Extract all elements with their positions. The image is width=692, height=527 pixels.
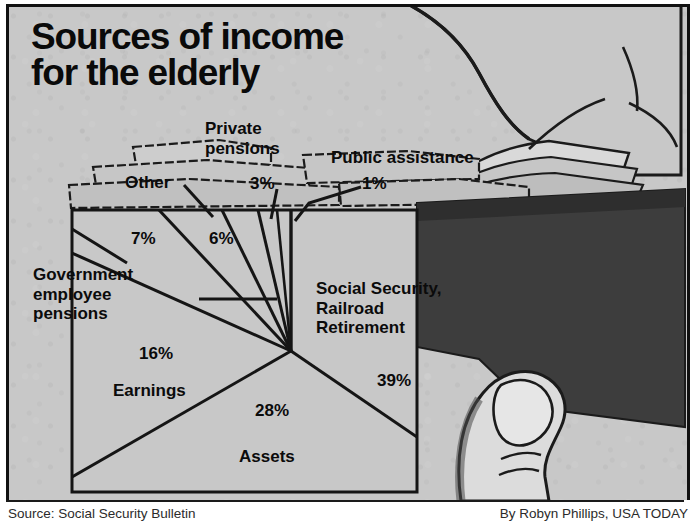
value-public-assistance: 1% [362, 174, 387, 194]
label-social-security-line-1: Social Security, [316, 279, 441, 298]
label-private-pensions-line-1: Private [205, 119, 262, 138]
label-earnings: Earnings [113, 381, 186, 401]
label-government-pensions: Government employee pensions [33, 265, 133, 324]
label-government-pensions-line-1: Government [33, 265, 133, 284]
footer-rule [6, 500, 684, 502]
label-public-assistance: Public assistance [331, 148, 474, 168]
value-social-security: 39% [377, 371, 411, 391]
value-government-pensions: 6% [209, 229, 234, 249]
page-title: Sources of income for the elderly [31, 19, 451, 92]
label-government-pensions-line-3: pensions [33, 304, 108, 323]
chart-panel: Sources of income for the elderly Privat… [6, 4, 690, 504]
byline-credit: By Robyn Phillips, USA TODAY [500, 506, 688, 521]
label-social-security-line-2: Railroad [316, 299, 384, 318]
thumbnail [494, 380, 553, 445]
infographic-root: Sources of income for the elderly Privat… [0, 0, 692, 527]
label-private-pensions-line-2: pensions [205, 139, 280, 158]
value-other: 7% [131, 229, 156, 249]
source-credit: Source: Social Security Bulletin [8, 506, 196, 521]
headline-line-1: Sources of income [31, 16, 343, 57]
value-earnings: 16% [139, 344, 173, 364]
headline-line-2: for the elderly [31, 55, 451, 91]
label-government-pensions-line-2: employee [33, 285, 111, 304]
value-assets: 28% [255, 401, 289, 421]
chart-footer: Source: Social Security Bulletin By Roby… [0, 500, 692, 527]
label-social-security: Social Security, Railroad Retirement [316, 279, 441, 338]
label-assets: Assets [239, 447, 295, 467]
label-private-pensions: Private pensions [205, 119, 280, 158]
label-social-security-line-3: Retirement [316, 318, 405, 337]
value-private-pensions: 3% [250, 174, 275, 194]
label-other: Other [125, 173, 170, 193]
